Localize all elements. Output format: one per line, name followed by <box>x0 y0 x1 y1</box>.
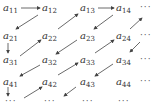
arrow-a32-a41 <box>20 65 40 76</box>
entry-a43: a43 <box>80 77 95 89</box>
entry-a41: a41 <box>3 77 18 89</box>
arrows-layer <box>0 0 155 107</box>
arrow-a34-a43 <box>95 64 113 76</box>
ellipsis-col4: ··· <box>118 97 130 106</box>
arrow-a24-dots <box>130 18 142 29</box>
entry-a33: a33 <box>80 55 95 67</box>
entry-a42: a42 <box>42 77 57 89</box>
entry-a12: a12 <box>42 3 57 15</box>
entry-a44: a44 <box>116 77 131 89</box>
arrow-a43-dots <box>64 87 76 96</box>
ellipsis-row1: ··· <box>140 3 152 12</box>
entry-a13: a13 <box>80 3 95 15</box>
arrow-a12-a21 <box>16 15 38 29</box>
entry-a11: a11 <box>3 3 18 15</box>
entry-a24: a24 <box>116 31 131 43</box>
ellipsis-col3: ··· <box>82 97 94 106</box>
entry-a32: a32 <box>42 55 57 67</box>
entry-a14: a14 <box>116 3 131 15</box>
ellipsis-row3: ··· <box>140 55 152 64</box>
entry-a23: a23 <box>80 31 95 43</box>
entry-a21: a21 <box>3 31 18 43</box>
ellipsis-row2: ··· <box>140 31 152 40</box>
ellipsis-col2: ··· <box>44 97 56 106</box>
ellipsis-col1: ··· <box>5 97 17 106</box>
entry-a22: a22 <box>42 31 57 43</box>
arrow-a23-a32 <box>56 40 77 54</box>
arrow-dots-a42 <box>24 87 42 98</box>
arrow-a31-a22 <box>20 40 41 56</box>
entry-a31: a31 <box>3 55 18 67</box>
arrow-a33-a24 <box>95 40 114 53</box>
arrow-a42-a33 <box>58 63 78 75</box>
arrow-dots-a34 <box>130 42 140 52</box>
arrow-a22-a13 <box>58 14 78 29</box>
arrow-a14-a23 <box>94 15 113 29</box>
ellipsis-row4: ··· <box>140 77 152 86</box>
entry-a34: a34 <box>116 55 131 67</box>
